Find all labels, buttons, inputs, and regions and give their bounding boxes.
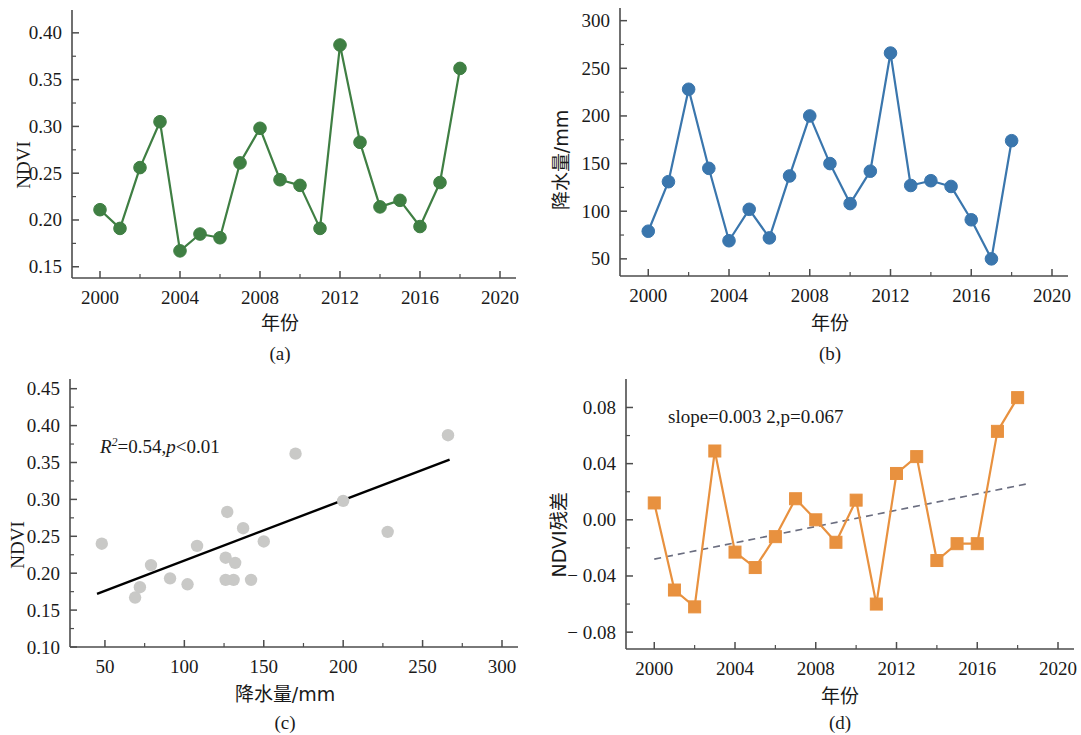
y-tick-label: 250 (582, 58, 611, 79)
data-series-line (654, 398, 1017, 607)
data-point-marker (648, 497, 660, 509)
data-point-marker (870, 598, 882, 610)
y-tick-label: 50 (591, 248, 610, 269)
scatter-point (219, 574, 231, 586)
panel-b-caption: (b) (819, 343, 841, 365)
x-tick-label: 2020 (1039, 658, 1077, 679)
annotation-p-value: <0.01 (176, 436, 220, 457)
data-point-marker (314, 222, 327, 235)
panel-d-svg: − 0.08− 0.040.000.040.082000200420082012… (540, 367, 1080, 735)
panel-d-y-axis-title: NDVI残差 (548, 492, 570, 577)
y-tick-label: 0.45 (27, 378, 60, 399)
y-tick-label: 300 (582, 10, 611, 31)
data-point-marker (864, 165, 877, 178)
panel-a-y-axis-title: NDVI (13, 141, 34, 189)
scatter-point (145, 559, 157, 571)
data-point-marker (803, 110, 816, 123)
data-point-marker (94, 203, 107, 216)
data-point-marker (254, 122, 267, 135)
panel-a-caption: (a) (269, 343, 290, 365)
y-tick-label: 0.00 (583, 509, 616, 530)
data-point-marker (354, 136, 367, 149)
annotation-p-symbol: p (164, 436, 176, 457)
data-point-marker (824, 157, 837, 170)
y-tick-label: 0.30 (29, 116, 62, 137)
data-point-marker (925, 174, 938, 187)
y-tick-label: 0.08 (583, 397, 616, 418)
scatter-point (442, 429, 454, 441)
x-tick-label: 200 (329, 656, 358, 677)
y-tick-label: 0.40 (27, 415, 60, 436)
scatter-point (245, 574, 257, 586)
scatter-point (337, 495, 349, 507)
data-point-marker (668, 584, 680, 596)
data-point-marker (985, 253, 998, 266)
data-point-marker (945, 180, 958, 193)
annotation-r-symbol: R (99, 436, 112, 457)
x-tick-label: 2000 (81, 287, 119, 308)
data-point-marker (743, 203, 756, 216)
data-point-marker (790, 493, 802, 505)
data-point-marker (682, 83, 695, 96)
panel-d-x-axis-title: 年份 (821, 685, 859, 707)
panel-annotation-r2: R2=0.54,p<0.01 (99, 435, 220, 457)
scatter-point (221, 506, 233, 518)
y-tick-label: 0.20 (29, 209, 62, 230)
panel-c-svg: 0.100.150.200.250.300.350.400.4550100150… (0, 367, 540, 735)
x-tick-label: 2000 (629, 285, 667, 306)
data-point-marker (884, 47, 897, 60)
data-point-marker (662, 175, 675, 188)
y-tick-label: − 0.08 (567, 622, 616, 643)
y-tick-label: 100 (582, 201, 611, 222)
x-tick-label: 300 (488, 656, 517, 677)
x-tick-label: 2004 (161, 287, 200, 308)
y-tick-label: 0.15 (29, 256, 62, 277)
panel-a-x-axis-title: 年份 (261, 312, 299, 334)
data-point-marker (991, 425, 1003, 437)
data-point-marker (154, 115, 167, 128)
x-tick-label: 2008 (797, 658, 835, 679)
panel-a-ndvi-timeseries: 0.150.200.250.300.350.402000200420082012… (0, 0, 540, 367)
y-tick-label: 0.35 (29, 69, 62, 90)
y-tick-label: 0.25 (27, 526, 60, 547)
panel-c-caption: (c) (274, 712, 295, 734)
annotation-r2-value: =0.54, (118, 436, 167, 457)
data-point-marker (723, 234, 736, 247)
y-tick-label: 200 (582, 105, 611, 126)
panel-b-y-axis-title: 降水量/mm (550, 110, 572, 210)
x-tick-label: 2008 (791, 285, 829, 306)
x-tick-label: 150 (250, 656, 279, 677)
data-point-marker (374, 201, 387, 214)
data-point-marker (971, 538, 983, 550)
x-tick-label: 2000 (635, 658, 673, 679)
data-point-marker (703, 162, 716, 175)
data-point-marker (234, 157, 247, 170)
scatter-point (219, 551, 231, 563)
data-series-line (100, 45, 460, 251)
x-tick-label: 250 (408, 656, 437, 677)
data-point-marker (134, 161, 147, 174)
x-tick-label: 50 (95, 656, 114, 677)
x-tick-label: 2020 (481, 287, 519, 308)
data-point-marker (689, 601, 701, 613)
y-tick-label: 0.10 (27, 637, 60, 658)
data-point-marker (749, 562, 761, 574)
data-point-marker (951, 538, 963, 550)
panel-a-svg: 0.150.200.250.300.350.402000200420082012… (0, 0, 540, 367)
y-tick-label: 0.35 (27, 452, 60, 473)
x-tick-label: 100 (170, 656, 199, 677)
data-point-marker (904, 179, 917, 192)
data-point-marker (931, 555, 943, 567)
data-point-marker (891, 467, 903, 479)
panel-c-x-axis-title: 降水量/mm (235, 683, 335, 705)
regression-line (97, 460, 450, 594)
data-point-marker (174, 245, 187, 258)
panel-c-ndvi-vs-precipitation-scatter: 0.100.150.200.250.300.350.400.4550100150… (0, 367, 540, 734)
data-point-marker (850, 494, 862, 506)
data-point-marker (274, 173, 287, 186)
y-tick-label: 0.40 (29, 22, 62, 43)
y-tick-label: 0.30 (27, 489, 60, 510)
data-point-marker (763, 232, 776, 245)
panel-d-caption: (d) (829, 712, 851, 734)
data-point-marker (454, 62, 467, 75)
